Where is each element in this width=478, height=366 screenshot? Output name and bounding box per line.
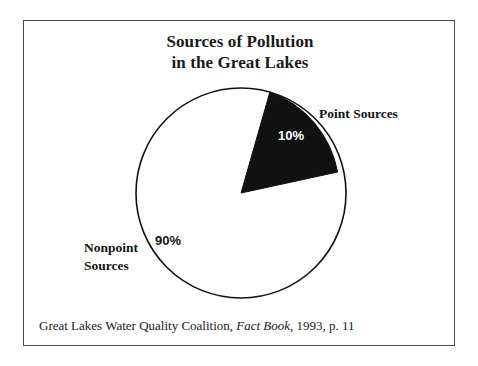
pie-label-nonpoint-line-1: Nonpoint — [84, 239, 138, 257]
figure-frame: Sources of Pollution in the Great Lakes … — [23, 20, 455, 346]
pie-label-nonpoint-line-2: Sources — [84, 257, 138, 275]
pie-label-point-sources: Point Sources — [319, 105, 398, 122]
pie-chart: Point Sources Nonpoint Sources 10% 90% — [24, 21, 456, 347]
pie-chart-svg — [24, 21, 456, 347]
figure-root: Sources of Pollution in the Great Lakes … — [0, 0, 478, 366]
source-caption-prefix: Great Lakes Water Quality Coalition, — [39, 318, 236, 333]
pie-label-nonpoint-sources: Nonpoint Sources — [84, 239, 138, 275]
pie-value-nonpoint-sources: 90% — [155, 233, 181, 248]
source-caption: Great Lakes Water Quality Coalition, Fac… — [39, 318, 355, 334]
source-caption-suffix: , 1993, p. 11 — [290, 318, 355, 333]
source-caption-title: Fact Book — [236, 318, 290, 333]
pie-value-point-sources: 10% — [278, 128, 304, 143]
